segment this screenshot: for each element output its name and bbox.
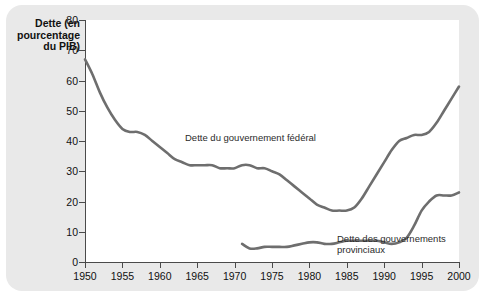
annotation-federal-debt: Dette du gouvernement fédéral	[185, 132, 316, 143]
annotation-provincial-debt: Dette des gouvernements provinciaux	[337, 233, 446, 255]
chart-figure: Dette (en pourcentage du PIB) 0102030405…	[0, 0, 485, 296]
